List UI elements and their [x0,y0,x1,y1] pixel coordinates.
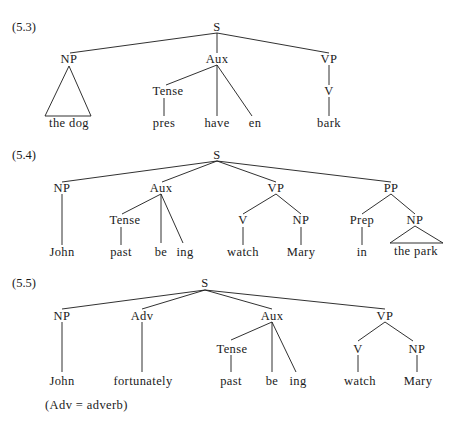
tree-5-5-edges [62,290,417,372]
leaf-mary: Mary [404,375,433,388]
node-vp: VP [321,53,338,66]
leaf-be: be [155,246,168,259]
node-pp: PP [384,182,399,195]
node-np: NP [61,53,78,66]
leaf-john: John [49,375,74,388]
leaf-bark: bark [317,117,341,130]
example-number: (5.5) [12,277,36,290]
leaf-the-dog: the dog [49,117,89,130]
node-np-object: NP [293,214,310,227]
node-aux: Aux [261,310,284,323]
leaf-past: past [220,375,242,388]
leaf-be: be [266,375,279,388]
leaf-past: past [110,246,132,259]
node-vp: VP [268,182,285,195]
tree-5-3-edges [45,33,329,116]
node-np-object: NP [409,343,426,356]
node-s: S [213,21,220,34]
example-number: (5.3) [12,21,36,34]
leaf-watch: watch [227,246,259,259]
node-tense: Tense [110,214,141,227]
abbreviation-note: (Adv = adverb) [45,399,128,412]
leaf-ing: ing [289,375,306,388]
leaf-mary: Mary [287,246,316,259]
leaf-fortunately: fortunately [113,375,172,388]
node-np: NP [54,182,71,195]
node-v: V [324,85,333,98]
node-v: V [353,343,362,356]
leaf-the-park: the park [394,245,438,258]
node-s: S [201,277,208,290]
leaf-ing: ing [176,246,193,259]
leaf-en: en [249,117,262,130]
node-adv: Adv [131,310,154,323]
node-np-pp: NP [407,214,424,227]
node-tense: Tense [153,85,184,98]
node-aux: Aux [150,182,173,195]
node-v: V [238,214,247,227]
node-vp: VP [377,310,394,323]
leaf-pres: pres [153,117,175,130]
leaf-john: John [49,246,74,259]
leaf-have: have [204,117,229,130]
leaf-in: in [357,246,368,259]
node-aux: Aux [206,53,229,66]
example-number: (5.4) [12,149,36,162]
node-s: S [213,149,220,162]
tree-5-4-edges [62,161,443,245]
node-tense: Tense [217,343,248,356]
node-prep: Prep [350,214,375,227]
node-np: NP [54,310,71,323]
leaf-watch: watch [344,375,376,388]
